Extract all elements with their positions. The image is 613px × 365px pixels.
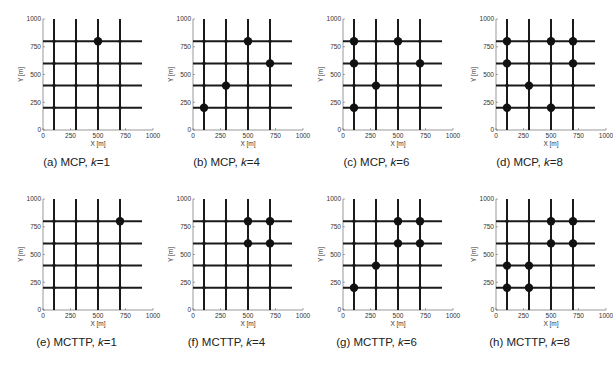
y-tick-label: 250 — [30, 99, 41, 106]
plot-area: 0250500750100002505007501000X [m]Y [m] — [453, 180, 606, 330]
point-marker — [266, 59, 274, 67]
point-marker — [266, 239, 274, 247]
y-tick-label: 500 — [330, 71, 341, 78]
x-tick-label: 500 — [243, 132, 254, 139]
point-marker — [372, 261, 380, 269]
y-tick-label: 500 — [180, 71, 191, 78]
x-tick-label: 0 — [494, 132, 498, 139]
subplot-caption: (g) MCTTP, k=6 — [300, 336, 453, 348]
road-grid — [193, 19, 292, 130]
x-axis-label: X [m] — [390, 320, 405, 328]
y-tick-label: 750 — [180, 43, 191, 50]
x-axis-label: X [m] — [543, 140, 558, 148]
x-axis-label: X [m] — [240, 140, 255, 148]
y-tick-label: 250 — [30, 279, 41, 286]
y-tick-label: 500 — [330, 251, 341, 258]
point-marker — [503, 261, 511, 269]
y-tick-label: 750 — [483, 43, 494, 50]
subplot-d: 0250500750100002505007501000X [m]Y [m](d… — [453, 0, 606, 182]
x-tick-label: 250 — [215, 132, 226, 139]
point-marker — [94, 37, 102, 45]
caption-k-value: =8 — [557, 336, 570, 348]
point-marker — [569, 59, 577, 67]
x-axis-label: X [m] — [240, 320, 255, 328]
x-axis-label: X [m] — [543, 320, 558, 328]
selected-points — [200, 37, 274, 112]
y-tick-label: 1000 — [480, 15, 495, 22]
subplot-g: 0250500750100002505007501000X [m]Y [m](g… — [300, 180, 453, 362]
subplot-f: 0250500750100002505007501000X [m]Y [m](f… — [150, 180, 303, 362]
x-tick-label: 750 — [120, 132, 131, 139]
y-tick-label: 0 — [337, 126, 341, 133]
point-marker — [569, 217, 577, 225]
y-tick-label: 500 — [30, 251, 41, 258]
y-tick-label: 1000 — [177, 195, 192, 202]
x-tick-label: 0 — [341, 132, 345, 139]
caption-prefix: (e) MCTTP, — [36, 336, 98, 348]
x-tick-label: 750 — [120, 312, 131, 319]
caption-k-value: =8 — [550, 156, 563, 168]
x-axis-label: X [m] — [90, 320, 105, 328]
y-tick-label: 750 — [180, 223, 191, 230]
x-tick-label: 0 — [41, 132, 45, 139]
caption-prefix: (c) MCP, — [344, 156, 391, 168]
y-tick-label: 1000 — [327, 195, 342, 202]
road-grid — [43, 19, 142, 130]
point-marker — [547, 239, 555, 247]
point-marker — [525, 81, 533, 89]
y-tick-label: 0 — [187, 306, 191, 313]
y-tick-label: 0 — [337, 306, 341, 313]
caption-prefix: (h) MCTTP, — [489, 336, 551, 348]
y-tick-label: 1000 — [480, 195, 495, 202]
subplot-c: 0250500750100002505007501000X [m]Y [m](c… — [300, 0, 453, 182]
point-marker — [350, 284, 358, 292]
plot-area: 0250500750100002505007501000X [m]Y [m] — [453, 0, 606, 150]
y-tick-label: 250 — [330, 99, 341, 106]
point-marker — [116, 217, 124, 225]
point-marker — [547, 104, 555, 112]
point-marker — [525, 261, 533, 269]
x-tick-label: 750 — [573, 312, 584, 319]
x-tick-label: 500 — [393, 132, 404, 139]
y-axis-label: Y [m] — [167, 247, 175, 262]
x-tick-label: 0 — [341, 312, 345, 319]
point-marker — [350, 104, 358, 112]
x-tick-label: 0 — [41, 312, 45, 319]
x-axis-label: X [m] — [390, 140, 405, 148]
point-marker — [244, 217, 252, 225]
y-axis-label: Y [m] — [317, 67, 325, 82]
subplot-h: 0250500750100002505007501000X [m]Y [m](h… — [453, 180, 606, 362]
y-tick-label: 1000 — [27, 195, 42, 202]
point-marker — [416, 217, 424, 225]
point-marker — [416, 59, 424, 67]
plot-area: 0250500750100002505007501000X [m]Y [m] — [300, 0, 453, 150]
y-axis-label: Y [m] — [17, 67, 25, 82]
caption-prefix: (b) MCP, — [193, 156, 241, 168]
y-tick-label: 500 — [180, 251, 191, 258]
caption-k-value: =6 — [404, 336, 417, 348]
y-axis-label: Y [m] — [470, 67, 478, 82]
x-tick-label: 250 — [518, 312, 529, 319]
y-tick-label: 0 — [490, 306, 494, 313]
subplot-caption: (f) MCTTP, k=4 — [150, 336, 303, 348]
road-grid — [343, 19, 442, 130]
y-axis-label: Y [m] — [470, 247, 478, 262]
point-marker — [222, 81, 230, 89]
x-tick-label: 500 — [393, 312, 404, 319]
x-tick-label: 0 — [191, 312, 195, 319]
point-marker — [372, 81, 380, 89]
caption-prefix: (d) MCP, — [496, 156, 544, 168]
y-axis-label: Y [m] — [17, 247, 25, 262]
road-grid — [43, 199, 142, 310]
y-tick-label: 750 — [330, 43, 341, 50]
road-grid — [496, 19, 595, 130]
y-tick-label: 250 — [180, 99, 191, 106]
point-marker — [350, 37, 358, 45]
point-marker — [350, 59, 358, 67]
selected-points — [350, 217, 424, 292]
subplot-b: 0250500750100002505007501000X [m]Y [m](b… — [150, 0, 303, 182]
point-marker — [244, 37, 252, 45]
y-tick-label: 750 — [30, 43, 41, 50]
x-tick-label: 500 — [93, 132, 104, 139]
x-tick-label: 500 — [93, 312, 104, 319]
